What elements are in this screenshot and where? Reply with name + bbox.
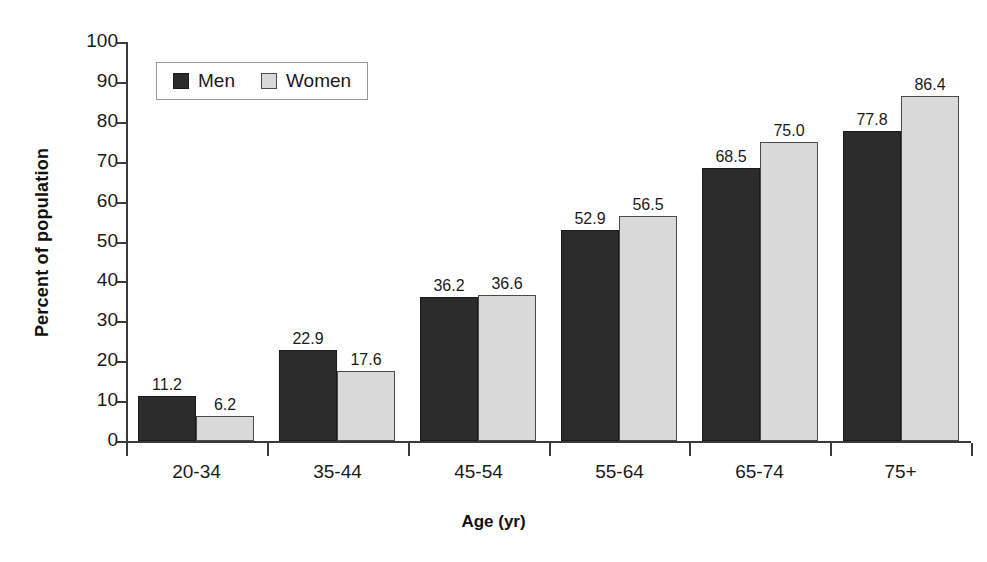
bar-women-45-54: 36.6 xyxy=(478,295,536,441)
y-tick-label: 20 xyxy=(97,349,118,371)
y-tick-mark xyxy=(117,202,126,204)
y-tick-label: 50 xyxy=(97,230,118,252)
bar-men-35-44: 22.9 xyxy=(279,350,337,441)
y-tick-label: 40 xyxy=(97,269,118,291)
x-category-label-65-74: 65-74 xyxy=(689,461,830,483)
legend-label-men: Men xyxy=(198,70,235,92)
x-tick-mark xyxy=(408,443,410,456)
bar-value-label: 56.5 xyxy=(632,196,663,214)
legend-item-men: Men xyxy=(173,70,235,92)
x-tick-mark xyxy=(689,443,691,456)
bar-women-65-74: 75.0 xyxy=(760,142,818,441)
bar-value-label: 22.9 xyxy=(292,330,323,348)
bar-value-label: 36.6 xyxy=(491,275,522,293)
x-axis-title: Age (yr) xyxy=(0,512,987,532)
y-tick-label: 10 xyxy=(97,389,118,411)
y-tick-label: 70 xyxy=(97,150,118,172)
bar-value-label: 36.2 xyxy=(433,277,464,295)
y-tick-label: 30 xyxy=(97,309,118,331)
y-tick-mark xyxy=(117,441,126,443)
x-category-label-45-54: 45-54 xyxy=(408,461,549,483)
y-tick-mark xyxy=(117,321,126,323)
x-tick-mark xyxy=(126,443,128,456)
x-tick-mark xyxy=(971,443,973,456)
x-category-label-20-34: 20-34 xyxy=(126,461,267,483)
x-tick-mark xyxy=(549,443,551,456)
bar-women-75+: 86.4 xyxy=(901,96,959,441)
bar-value-label: 86.4 xyxy=(914,76,945,94)
x-category-label-55-64: 55-64 xyxy=(549,461,690,483)
x-tick-mark xyxy=(830,443,832,456)
bar-women-20-34: 6.2 xyxy=(196,416,254,441)
y-tick-mark xyxy=(117,401,126,403)
y-tick-mark xyxy=(117,42,126,44)
legend-swatch-women-icon xyxy=(261,73,277,89)
x-tick-mark xyxy=(267,443,269,456)
y-tick-label: 60 xyxy=(97,190,118,212)
y-tick-label: 90 xyxy=(97,70,118,92)
bar-value-label: 6.2 xyxy=(214,396,236,414)
legend-item-women: Women xyxy=(261,70,351,92)
bar-men-65-74: 68.5 xyxy=(702,168,760,441)
legend-label-women: Women xyxy=(286,70,351,92)
bar-value-label: 11.2 xyxy=(152,376,182,394)
y-tick-mark xyxy=(117,281,126,283)
chart-legend: Men Women xyxy=(156,62,368,100)
y-tick-mark xyxy=(117,162,126,164)
bar-value-label: 68.5 xyxy=(715,148,746,166)
bar-men-45-54: 36.2 xyxy=(420,297,478,441)
y-tick-label: 100 xyxy=(86,30,118,52)
bar-value-label: 52.9 xyxy=(574,210,605,228)
y-tick-label: 80 xyxy=(97,110,118,132)
legend-swatch-men-icon xyxy=(173,73,189,89)
bar-value-label: 75.0 xyxy=(773,122,804,140)
bar-chart-figure: Percent of population 010203040506070809… xyxy=(0,0,987,562)
y-tick-mark xyxy=(117,242,126,244)
y-tick-mark xyxy=(117,82,126,84)
bar-value-label: 77.8 xyxy=(856,111,887,129)
bar-women-55-64: 56.5 xyxy=(619,216,677,441)
y-tick-mark xyxy=(117,122,126,124)
x-category-label-75+: 75+ xyxy=(830,461,971,483)
bar-men-20-34: 11.2 xyxy=(138,396,196,441)
bar-women-35-44: 17.6 xyxy=(337,371,395,441)
y-tick-mark xyxy=(117,361,126,363)
y-tick-label: 0 xyxy=(107,429,118,451)
y-axis-line xyxy=(126,42,128,443)
x-category-label-35-44: 35-44 xyxy=(267,461,408,483)
bar-men-75+: 77.8 xyxy=(843,131,901,441)
y-axis-title: Percent of population xyxy=(32,83,53,403)
bar-value-label: 17.6 xyxy=(350,351,381,369)
plot-area: 0102030405060708090100 11.26.222.917.636… xyxy=(126,42,971,443)
bar-men-55-64: 52.9 xyxy=(561,230,619,441)
